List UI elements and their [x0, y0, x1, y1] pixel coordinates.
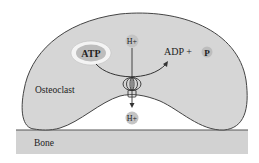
- osteoclast-label: Osteoclast: [35, 85, 75, 95]
- osteoclast-proton-pump-diagram: ATP ADP + P H+ H+ Osteoclast Bone: [0, 0, 259, 163]
- arrow-down-icon: [130, 103, 135, 108]
- adp-label: ADP +: [164, 46, 192, 57]
- bone-label: Bone: [34, 138, 54, 148]
- atp-label: ATP: [81, 48, 100, 59]
- proton-top-label: H+: [127, 37, 138, 46]
- phosphate-label: P: [204, 48, 210, 58]
- proton-bottom-label: H+: [127, 114, 138, 123]
